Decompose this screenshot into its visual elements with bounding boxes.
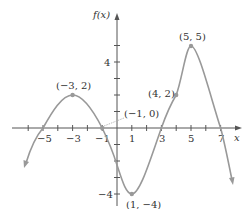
x-tick-label: −5	[37, 133, 52, 144]
x-axis: x −5 −3 −1 1 3 5 7	[12, 125, 242, 144]
x-tick-label: 5	[188, 133, 194, 144]
point-label: (4, 2)	[148, 88, 175, 99]
point-marker	[70, 93, 74, 97]
curve-right-arrow-icon	[229, 177, 235, 185]
y-tick-label: −4	[98, 189, 113, 200]
point-label: (−3, 2)	[56, 80, 91, 91]
function-curve	[24, 46, 235, 194]
point-marker	[130, 192, 134, 196]
point-label: (1, −4)	[126, 199, 161, 209]
leader-line	[104, 118, 124, 126]
x-axis-label: x	[234, 132, 240, 143]
curve-left-arrow-icon	[24, 160, 30, 168]
x-axis-arrow-icon	[235, 126, 242, 131]
y-axis-label: f(x)	[92, 9, 110, 20]
y-tick-label: 4	[104, 57, 110, 68]
point-label: (−1, 0)	[124, 108, 159, 119]
point-marker	[100, 126, 104, 130]
y-axis: f(x) 4 −4	[92, 9, 120, 206]
annotated-points	[70, 44, 193, 196]
graph-canvas: x −5 −3 −1 1 3 5 7 f	[0, 0, 251, 209]
x-tick-label: 1	[129, 133, 135, 144]
y-axis-arrow-icon	[115, 13, 120, 20]
function-graph: x −5 −3 −1 1 3 5 7 f	[0, 0, 251, 209]
x-tick-label: −3	[66, 133, 81, 144]
x-tick-label: 3	[159, 133, 165, 144]
point-marker	[189, 44, 193, 48]
point-label: (5, 5)	[179, 31, 206, 42]
